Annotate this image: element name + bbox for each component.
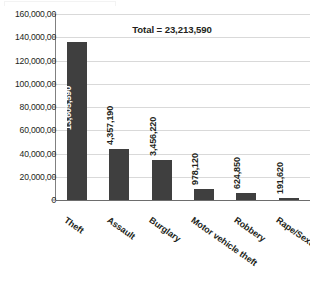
y-axis-tick-label: 80,000,00	[0, 103, 56, 112]
x-axis-baseline	[56, 200, 310, 201]
bar-chart-figure: 020,000,0040,000,0060,000,0080,000,00100…	[0, 0, 310, 294]
bar-slot: 191,620	[268, 14, 310, 200]
x-axis-category-label: Theft	[62, 215, 85, 236]
y-axis-tick-mark	[51, 107, 55, 108]
x-axis-category-label: Rape/Sexual Assault	[274, 215, 310, 273]
bar[interactable]	[109, 149, 129, 200]
bar-value-label: 4,357,190	[105, 106, 115, 145]
y-axis-tick-label: 120,000,00	[0, 56, 56, 65]
bar-series: 13,605,5904,357,1903,456,220978,120624,8…	[56, 14, 310, 200]
y-axis-tick-label: 0	[0, 196, 56, 205]
bar-slot: 3,456,220	[141, 14, 183, 200]
y-axis-tick-mark	[51, 83, 55, 84]
y-axis-tick-label: 160,000,00	[0, 10, 56, 19]
bar-slot: 624,850	[225, 14, 267, 200]
y-axis-tick-mark	[51, 130, 55, 131]
y-axis-tick-label: 100,000,00	[0, 79, 56, 88]
total-annotation: Total = 23,213,590	[0, 24, 310, 35]
y-axis-tick-label: 40,000,00	[0, 149, 56, 158]
bar-slot: 13,605,590	[56, 14, 98, 200]
plot-area: 020,000,0040,000,0060,000,0080,000,00100…	[0, 14, 310, 214]
y-axis-tick-mark	[51, 14, 55, 15]
y-axis-tick-mark	[51, 37, 55, 38]
bar-value-label: 624,850	[232, 157, 242, 189]
bar[interactable]	[194, 189, 214, 200]
x-axis-category-label: Assault	[105, 215, 137, 241]
bar-value-label: 13,605,590	[63, 86, 73, 130]
y-axis-tick-mark	[51, 200, 55, 201]
y-axis-tick-mark	[51, 176, 55, 177]
x-axis-category-label: Burglary	[147, 215, 182, 244]
y-axis-tick-mark	[51, 60, 55, 61]
cropped-top-artifact	[4, 1, 116, 6]
bar-value-label: 3,456,220	[147, 117, 157, 156]
x-axis-category-labels: TheftAssaultBurglaryMotor vehicle theftR…	[56, 215, 310, 294]
y-axis-tick-label: 60,000,00	[0, 126, 56, 135]
x-axis-category-label: Robbery	[232, 215, 267, 244]
y-axis-tick-label: 20,000,00	[0, 172, 56, 181]
bar[interactable]	[279, 198, 299, 200]
bar-value-label: 978,120	[190, 153, 200, 185]
y-axis-tick-mark	[51, 153, 55, 154]
bar[interactable]	[236, 193, 256, 200]
bar-slot: 978,120	[183, 14, 225, 200]
bar-slot: 4,357,190	[98, 14, 140, 200]
bar[interactable]	[152, 160, 172, 200]
bar-value-label: 191,620	[274, 162, 284, 194]
